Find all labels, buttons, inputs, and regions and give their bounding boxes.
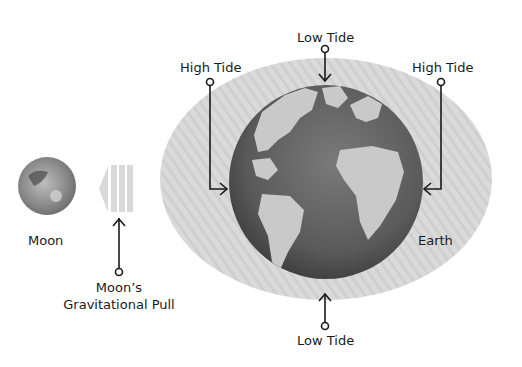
high-tide-right-label: High Tide <box>412 60 473 75</box>
moon-label: Moon <box>28 233 63 248</box>
high-tide-left-label: High Tide <box>180 60 241 75</box>
pull-label-line2: Gravitational Pull <box>54 297 184 312</box>
low-tide-top-label: Low Tide <box>297 30 354 45</box>
moon-icon <box>18 157 76 215</box>
gravitational-pull-icon <box>99 165 133 212</box>
pull-label-line1: Moon’s <box>69 280 169 295</box>
low-tide-bottom-label: Low Tide <box>297 333 354 348</box>
earth-label: Earth <box>418 233 453 248</box>
pull-callout <box>113 218 125 276</box>
earth-globe-icon <box>229 85 423 279</box>
low-tide-bottom-callout <box>319 294 331 330</box>
